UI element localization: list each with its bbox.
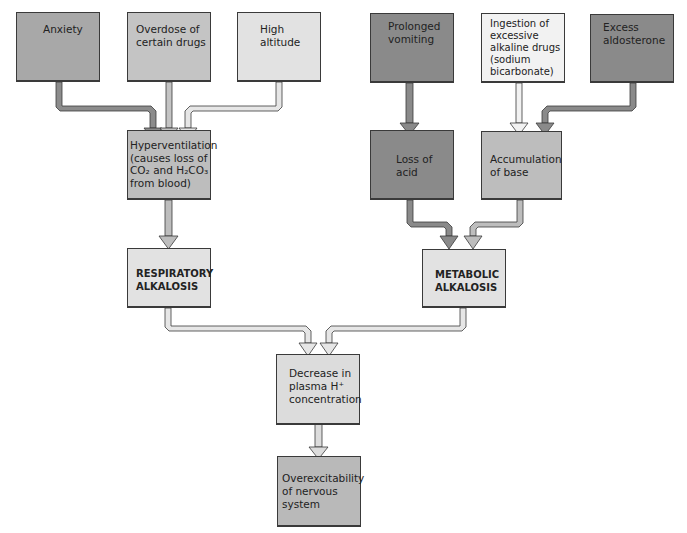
arrow-lossacid-metabolic bbox=[407, 200, 458, 249]
node-text: ALKALOSIS bbox=[136, 280, 202, 293]
node-text: from blood) bbox=[130, 177, 208, 190]
arrow-decrease-overexcitability bbox=[309, 424, 328, 459]
node-text: Hyperventilation bbox=[130, 139, 208, 152]
node-text: bicarbonate) bbox=[490, 66, 560, 78]
node-text: Anxiety bbox=[43, 23, 91, 36]
node-text: acid bbox=[396, 166, 445, 179]
node-text: concentration bbox=[289, 393, 351, 406]
node-text: RESPIRATORY bbox=[136, 267, 202, 280]
node-loss-of-acid: Loss of acid bbox=[370, 130, 454, 200]
node-overexcitability: Overexcitability of nervous system bbox=[277, 456, 361, 527]
connector-arrows bbox=[0, 0, 687, 533]
node-respiratory-alkalosis: RESPIRATORY ALKALOSIS bbox=[127, 248, 211, 308]
node-text: vomiting bbox=[388, 33, 445, 46]
node-text: of base bbox=[490, 166, 553, 179]
node-overdose: Overdose of certain drugs bbox=[127, 12, 211, 82]
node-text: ALKALOSIS bbox=[435, 281, 497, 294]
arrow-aldosterone-accumulation bbox=[536, 83, 636, 135]
node-text: of nervous bbox=[282, 485, 352, 498]
node-excess-aldosterone: Excess aldosterone bbox=[590, 14, 674, 83]
node-text: Accumulation bbox=[490, 153, 553, 166]
node-text: alkaline drugs bbox=[490, 42, 560, 54]
node-hyperventilation: Hyperventilation (causes loss of CO₂ and… bbox=[127, 130, 211, 200]
node-decrease-plasma-h: Decrease in plasma H⁺ concentration bbox=[276, 354, 360, 425]
node-text: Overexcitability bbox=[282, 472, 352, 485]
node-text: Excess bbox=[603, 21, 665, 34]
node-high-altitude: High altitude bbox=[237, 12, 321, 82]
node-text: METABOLIC bbox=[435, 268, 497, 281]
node-text: altitude bbox=[260, 36, 312, 49]
node-prolonged-vomiting: Prolonged vomiting bbox=[370, 13, 454, 83]
node-text: system bbox=[282, 498, 352, 511]
arrow-vomiting-lossacid bbox=[400, 83, 419, 135]
node-text: High bbox=[260, 23, 312, 36]
node-accumulation-of-base: Accumulation of base bbox=[481, 131, 562, 200]
arrow-respiratory-decrease bbox=[165, 308, 317, 356]
node-metabolic-alkalosis: METABOLIC ALKALOSIS bbox=[422, 249, 506, 308]
arrow-ingestion-accumulation bbox=[510, 83, 528, 135]
arrow-metabolic-decrease bbox=[320, 308, 466, 356]
node-text: Loss of bbox=[396, 153, 445, 166]
node-ingestion-alkaline-drugs: Ingestion of excessive alkaline drugs (s… bbox=[481, 13, 565, 83]
arrow-hyperventilation-respiratory bbox=[159, 200, 178, 249]
node-text: plasma H⁺ bbox=[289, 380, 351, 393]
node-text: (causes loss of bbox=[130, 152, 208, 165]
node-text: excessive bbox=[490, 30, 560, 42]
node-text: Overdose of bbox=[136, 23, 202, 36]
node-text: Ingestion of bbox=[490, 18, 560, 30]
arrow-accumulation-metabolic bbox=[464, 200, 523, 249]
node-text: Prolonged bbox=[388, 20, 445, 33]
node-anxiety: Anxiety bbox=[16, 12, 100, 82]
node-text: Decrease in bbox=[289, 367, 351, 380]
node-text: CO₂ and H₂CO₃ bbox=[130, 164, 208, 177]
node-text: certain drugs bbox=[136, 36, 202, 49]
node-text: (sodium bbox=[490, 54, 560, 66]
node-text: aldosterone bbox=[603, 34, 665, 47]
